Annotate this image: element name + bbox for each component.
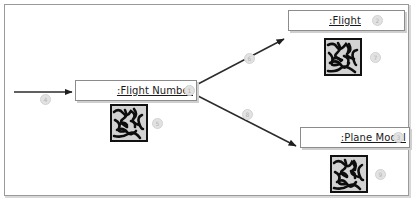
node-flight[interactable]: :Flight <box>288 10 405 31</box>
edge-to-plane-model <box>198 96 296 146</box>
diagram-canvas: :Flight Number 1 :Flight 2 :Plane Model … <box>0 0 417 204</box>
badge-thumbnail-flight: 7 <box>370 52 381 63</box>
node-flight-number[interactable]: :Flight Number <box>75 80 197 101</box>
edge-to-flight <box>198 39 284 84</box>
scribble-texture-icon <box>332 157 366 191</box>
thumbnail-flight-number[interactable] <box>110 104 148 142</box>
scribble-texture-icon <box>112 106 146 140</box>
badge-node-flight-number: 1 <box>184 85 195 96</box>
badge-node-flight: 2 <box>372 15 383 26</box>
badge-thumbnail-plane-model: 9 <box>375 169 386 180</box>
node-label-flight-number: :Flight Number <box>117 85 193 96</box>
scribble-texture-icon <box>326 40 360 74</box>
badge-edge-to-plane-model: 8 <box>242 109 253 120</box>
badge-node-plane-model: 3 <box>393 132 404 143</box>
badge-thumbnail-flight-number: 5 <box>152 118 163 129</box>
node-label-flight: :Flight <box>329 15 361 26</box>
thumbnail-flight[interactable] <box>324 38 362 76</box>
badge-edge-incoming: 4 <box>40 94 51 105</box>
badge-edge-to-flight: 6 <box>244 53 255 64</box>
thumbnail-plane-model[interactable] <box>330 155 368 193</box>
